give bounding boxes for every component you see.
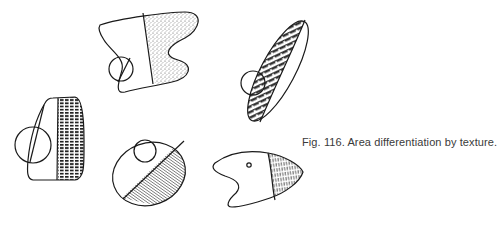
figure-caption: Fig. 116. Area differentiation by textur…	[302, 136, 497, 148]
fish-vertical-dashes	[213, 150, 310, 207]
oval-diagonal-lines	[104, 132, 200, 216]
s-shape-stipple	[99, 5, 200, 95]
tilted-ellipse-zigzag	[237, 10, 320, 130]
trapezoid-grid	[15, 95, 88, 185]
